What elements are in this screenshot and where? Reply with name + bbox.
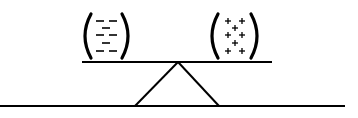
right-paren-icon [251,14,257,58]
seesaw-diagram [0,0,358,118]
right-paren-icon [122,14,128,58]
plus-signs [225,18,245,54]
fulcrum [135,62,219,106]
left-paren-icon [212,14,218,58]
negative-charge-group [85,14,128,58]
positive-charge-group [212,14,257,58]
minus-signs [96,21,117,51]
left-paren-icon [85,14,91,58]
